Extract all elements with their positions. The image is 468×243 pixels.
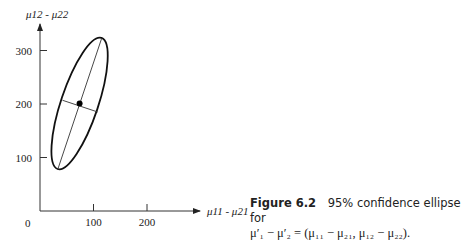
y-tick-label: 300 [16,45,33,57]
origin-label: 0 [25,217,31,229]
x-tick-label: 100 [85,216,102,228]
figure-caption: Figure 6.2 95% confidence ellipse for μ′… [250,196,465,241]
y-tick-label: 200 [16,98,33,110]
y-tick-label: 100 [16,152,33,164]
x-axis-label: μ11 - μ21 [206,205,248,217]
center-point [77,100,83,106]
x-tick-label: 200 [139,216,156,228]
y-axis-label: μ12 - μ22 [25,8,69,20]
caption-equation: μ′₁ − μ′₂ = (μ₁₁ − μ₂₁, μ₁₂ − μ₂₂). [250,226,410,240]
figure-label: Figure 6.2 [250,196,316,210]
